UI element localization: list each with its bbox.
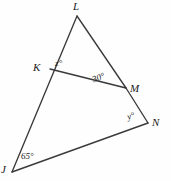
vertex-label-K: K	[33, 62, 40, 73]
segment-JN	[12, 123, 148, 172]
vertex-label-N: N	[152, 117, 159, 128]
vertex-label-J: J	[1, 164, 6, 175]
segment-JL	[12, 16, 77, 172]
geometry-figure: L K M N J z° 30° y° 65°	[0, 0, 171, 181]
vertex-label-L: L	[73, 1, 79, 12]
vertex-label-M: M	[130, 83, 139, 94]
angle-label-65: 65°	[21, 152, 34, 161]
angle-label-z: z°	[55, 59, 62, 68]
